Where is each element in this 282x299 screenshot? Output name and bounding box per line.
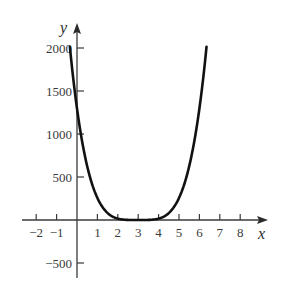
x-tick-label: 5 [176,225,183,240]
x-tick-label: 2 [115,225,122,240]
x-tick-label: 6 [196,225,203,240]
y-tick-label: −500 [45,256,72,271]
y-tick-label: 2000 [46,41,72,56]
y-tick-label: 1000 [46,127,72,142]
function-graph: −2−112345678 200015001000500−500 x y [0,0,282,299]
x-tick-label: 1 [94,225,101,240]
y-tick-label: 500 [53,170,73,185]
x-tick-label: 4 [155,225,162,240]
x-tick-label: 7 [217,225,224,240]
curve-line [70,47,207,220]
x-tick-label: −2 [29,225,43,240]
x-tick-label: −1 [50,225,64,240]
x-tick-label: 3 [135,225,142,240]
y-tick-label: 1500 [46,84,72,99]
x-tick-label: 8 [237,225,244,240]
y-axis-label: y [58,19,68,37]
x-axis-label: x [257,225,265,242]
x-ticks: −2−112345678 [29,214,243,240]
